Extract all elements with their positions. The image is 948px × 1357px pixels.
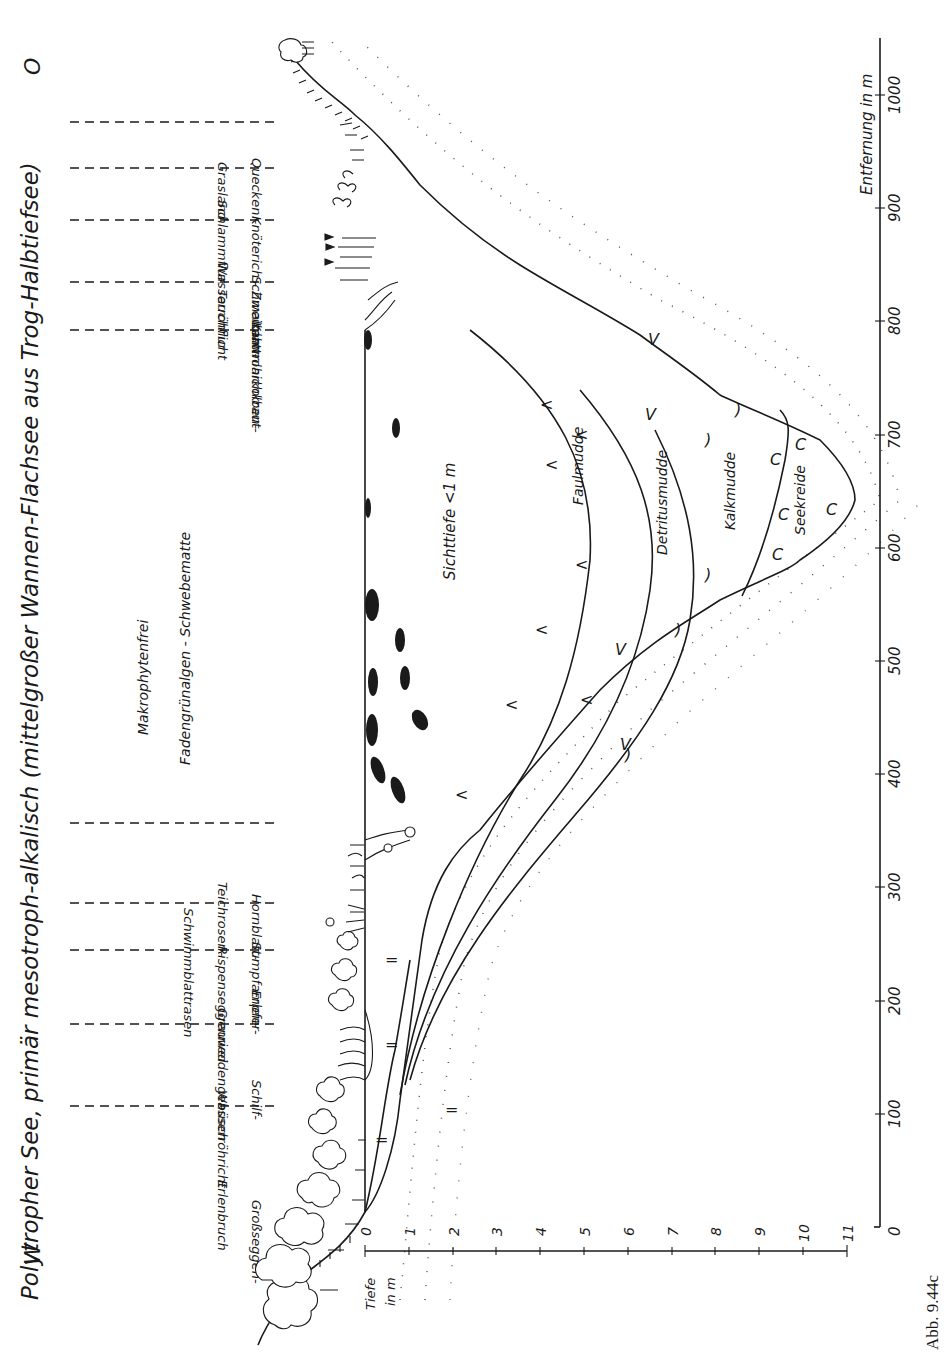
symbol: =	[375, 1130, 388, 1149]
symbol: V	[648, 330, 660, 349]
depth-tick: 3	[489, 1227, 505, 1236]
distance-axis-label: Entfernung in m	[858, 74, 876, 195]
zone-label: Erlenbruch	[215, 1180, 230, 1251]
depth-tick: 7	[665, 1227, 681, 1236]
east-shore-tree	[279, 39, 314, 63]
zone-label: Hornblatt-	[249, 894, 264, 960]
depth-tick: 1	[402, 1227, 418, 1236]
symbol: <	[545, 455, 558, 474]
depth-tick: 10	[796, 1224, 812, 1242]
lake-profile-diagram: Polytropher See, primär mesotroph-alkali…	[0, 0, 948, 1357]
algae-mats	[364, 330, 432, 805]
distance-tick: 0	[886, 1226, 904, 1236]
symbol: =	[385, 950, 398, 969]
depth-axis-label: in m	[383, 1277, 398, 1306]
zone-separators	[70, 122, 280, 1106]
zone-label: Grasland	[215, 162, 230, 221]
depth-tick: 5	[577, 1227, 593, 1236]
zone-label: Schwimmblattrasen	[181, 908, 196, 1038]
sediment-label-detritusmudde: Detritusmudde	[654, 450, 670, 555]
distance-tick: 500	[886, 646, 904, 675]
sediment-label-seekreide: Seekreide	[792, 465, 808, 535]
symbol: =	[445, 1100, 458, 1119]
lake-basin-outline	[258, 60, 855, 1345]
substrate-dots	[330, 40, 918, 1300]
distance-tick: 200	[886, 986, 904, 1015]
depth-tick: 2	[446, 1227, 462, 1236]
depth-tick: 8	[708, 1227, 724, 1236]
zones-west: Großseggen- Erlenbruch Schilf- Wasserröh…	[181, 882, 264, 1284]
symbol: V	[615, 640, 627, 659]
east-shore-vegetation	[325, 123, 398, 330]
distance-axis: 0 100 200 300 400 500 600 700 800 900 10…	[858, 38, 904, 1236]
zone-label: Teichrosen-	[215, 882, 230, 957]
symbol: <	[455, 785, 468, 804]
symbol: C	[826, 500, 838, 519]
zones-center: Makrophytenfrei Fadengrünalgen - Schwebe…	[135, 532, 193, 765]
distance-tick: 1000	[886, 76, 904, 114]
distance-tick: 300	[886, 872, 904, 901]
symbol: )	[674, 620, 681, 639]
symbol: V	[645, 405, 657, 424]
symbol: <	[575, 555, 588, 574]
zone-label: Knöterich - Zweizahn-	[249, 216, 264, 359]
depth-axis: 0 1 2 3 4 5 6 7 8 9 10 11 Tiefe in m	[358, 1224, 856, 1310]
zone-label: Fadengrünalgen - Schwebematte	[177, 532, 193, 765]
symbol: )	[624, 745, 631, 764]
distance-tick: 900	[886, 193, 904, 222]
east-shore-hatch	[291, 60, 368, 139]
west-shore-trees	[256, 827, 415, 1329]
compass-east: O	[20, 58, 45, 75]
symbol: C	[778, 505, 790, 524]
symbol: <	[505, 695, 518, 714]
secchi-depth-label: Sichttiefe <1 m	[441, 463, 459, 580]
zone-label: Schilf-	[249, 1080, 264, 1120]
symbol: C	[772, 545, 784, 564]
distance-tick: 600	[886, 533, 904, 562]
depth-tick: 6	[621, 1227, 637, 1236]
distance-tick: 800	[886, 306, 904, 335]
symbol: )	[704, 430, 711, 449]
sediment-label-kalkmudde: Kalkmudde	[722, 452, 738, 530]
symbol: <	[575, 425, 588, 444]
symbol: =	[385, 1035, 398, 1054]
diagram-title: Polytropher See, primär mesotroph-alkali…	[17, 162, 43, 1300]
compass-west: W	[20, 1242, 45, 1265]
depth-tick: 9	[752, 1227, 768, 1236]
symbol: <	[540, 395, 553, 414]
symbol: <	[580, 690, 593, 709]
distance-tick: 100	[886, 1099, 904, 1128]
sediment-symbols: < < < < < < < < V V V V ) ) ) ) ) C C C …	[375, 330, 838, 1149]
distance-tick: 400	[886, 759, 904, 788]
depth-tick: 0	[358, 1227, 374, 1236]
symbol: <	[535, 620, 548, 639]
depth-tick: 11	[840, 1224, 856, 1242]
zone-label: Rispenseggenried	[215, 946, 230, 1063]
distance-tick: 700	[886, 420, 904, 449]
zone-label: Quecken -	[249, 158, 264, 225]
symbol: C	[770, 450, 782, 469]
zone-label: Makrophytenfrei	[135, 620, 151, 735]
symbol: )	[704, 565, 711, 584]
symbol: )	[734, 400, 741, 419]
depth-axis-label: Tiefe	[363, 1278, 378, 1310]
symbol: C	[795, 435, 807, 454]
zones-east: Kammlaichkraut- Tauchflur Schmalblattroh…	[215, 158, 264, 433]
depth-tick: 4	[533, 1227, 549, 1236]
figure-caption: Abb. 9.44c	[923, 1274, 942, 1350]
